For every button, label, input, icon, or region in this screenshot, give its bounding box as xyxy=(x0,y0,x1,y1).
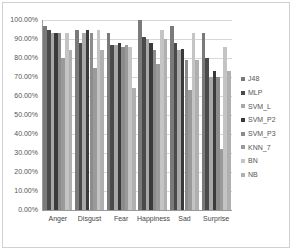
bar-nb-anger xyxy=(69,50,73,210)
legend-item: SVM_P3 xyxy=(241,127,276,141)
legend-swatch-icon xyxy=(241,118,245,122)
y-tick-label: 30.00% xyxy=(0,149,38,156)
x-axis-line xyxy=(42,210,232,211)
legend-label: SVM_L xyxy=(248,103,271,110)
legend-item: NB xyxy=(241,168,276,182)
legend-swatch-icon xyxy=(241,159,245,163)
legend-label: SVM_P3 xyxy=(248,130,276,137)
legend-item: MLP xyxy=(241,86,276,100)
legend-item: J48 xyxy=(241,72,276,86)
legend-swatch-icon xyxy=(241,77,245,81)
x-tick-label: Anger xyxy=(42,215,74,222)
bar-nb-fear xyxy=(132,88,136,210)
y-tick-label: 0.00% xyxy=(0,206,38,213)
y-tick-label: 40.00% xyxy=(0,130,38,137)
legend-item: SVM_L xyxy=(241,99,276,113)
y-tick-label: 80.00% xyxy=(0,54,38,61)
y-tick-label: 60.00% xyxy=(0,92,38,99)
bar-nb-disgust xyxy=(100,50,104,210)
y-tick-label: 100.00% xyxy=(0,16,38,23)
legend-swatch-icon xyxy=(241,173,245,177)
legend-item: KNN_7 xyxy=(241,140,276,154)
legend-item: BN xyxy=(241,154,276,168)
legend-label: J48 xyxy=(248,75,259,82)
x-tick-label: Surprise xyxy=(200,215,232,222)
legend-label: KNN_7 xyxy=(248,144,271,151)
legend-swatch-icon xyxy=(241,91,245,95)
legend-swatch-icon xyxy=(241,145,245,149)
y-tick-label: 90.00% xyxy=(0,35,38,42)
y-tick-label: 70.00% xyxy=(0,73,38,80)
y-tick-label: 10.00% xyxy=(0,187,38,194)
legend-swatch-icon xyxy=(241,132,245,136)
bar-nb-surprise xyxy=(227,71,231,210)
gridline xyxy=(42,20,232,21)
legend: J48MLPSVM_LSVM_P2SVM_P3KNN_7BNNB xyxy=(241,72,276,182)
bar-nb-happiness xyxy=(164,39,168,210)
legend-label: NB xyxy=(248,171,258,178)
x-tick-label: Happiness xyxy=(137,215,169,222)
legend-label: MLP xyxy=(248,89,262,96)
legend-label: SVM_P2 xyxy=(248,116,276,123)
y-tick-label: 50.00% xyxy=(0,111,38,118)
legend-item: SVM_P2 xyxy=(241,113,276,127)
x-tick-label: Sad xyxy=(169,215,201,222)
x-tick-label: Fear xyxy=(105,215,137,222)
legend-label: BN xyxy=(248,157,258,164)
x-tick-label: Disgust xyxy=(74,215,106,222)
bar-nb-sad xyxy=(195,60,199,210)
y-tick-label: 20.00% xyxy=(0,168,38,175)
legend-swatch-icon xyxy=(241,104,245,108)
